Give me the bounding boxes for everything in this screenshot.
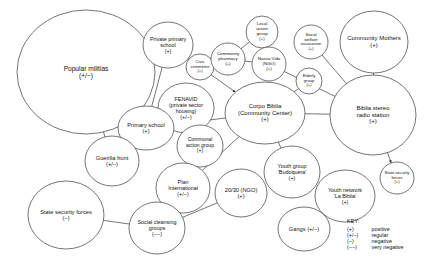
node-state-security-forces-neg[interactable]: [28, 181, 104, 249]
node-community-pharmacy[interactable]: [211, 43, 245, 75]
edge-social-welfare-assoc-to-biblia-stereo-radio: [322, 55, 346, 84]
node-social-welfare-assoc[interactable]: [294, 25, 328, 59]
legend-meaning: very negative: [372, 245, 404, 251]
node-gangs[interactable]: [278, 207, 330, 251]
node-social-cleansing-groups[interactable]: [129, 202, 185, 254]
node-guerilla-front[interactable]: [85, 136, 139, 186]
node-state-security-forces-pos[interactable]: [380, 162, 414, 194]
edge-state-security-forces-neg-to-social-cleansing-groups: [104, 220, 130, 224]
node-local-action-group[interactable]: [246, 16, 278, 48]
edge-civic-committee-to-corpo-biblia: [211, 75, 235, 92]
node-biblia-stereo-radio[interactable]: [330, 75, 416, 155]
legend-row: (−−)very negative: [347, 245, 404, 251]
node-civic-committee[interactable]: [186, 54, 214, 80]
edge-community-pharmacy-to-local-action-group: [241, 42, 249, 49]
node-communal-action-group[interactable]: [177, 125, 223, 167]
edge-biblia-stereo-radio-to-state-security-forces-pos: [387, 153, 391, 163]
node-youth-group-budoquera[interactable]: [264, 146, 320, 198]
node-private-primary-school[interactable]: [143, 22, 193, 68]
legend-title: KEY:: [347, 219, 404, 224]
legend-table: (+)positive(+/−)regular(−)negative(−−)ve…: [347, 227, 404, 251]
node-corpo-biblia[interactable]: [225, 82, 305, 144]
edge-corpo-biblia-to-youth-group-budoquera: [278, 142, 281, 148]
node-elderly-group[interactable]: [296, 68, 322, 94]
network-diagram-canvas: Popular militias(+/−)Private primaryscho…: [0, 0, 440, 273]
legend-symbol: (−−): [347, 245, 372, 251]
edge-elderly-group-to-corpo-biblia: [294, 89, 298, 92]
node-twenty-thirty-ngo[interactable]: [215, 169, 267, 217]
edge-popular-militias-to-guerilla-front: [104, 132, 105, 137]
legend: KEY: (+)positive(+/−)regular(−)negative(…: [347, 219, 404, 251]
node-nueva-vida-ngo[interactable]: [252, 47, 286, 81]
edge-community-pharmacy-to-nueva-vida-ngo: [245, 61, 252, 62]
node-community-mothers[interactable]: [340, 11, 408, 73]
node-youth-network-la-biblia[interactable]: [315, 170, 375, 222]
